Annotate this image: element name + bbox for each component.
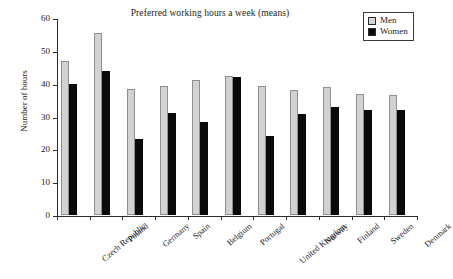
chart-title: Preferred working hours a week (means) bbox=[60, 8, 360, 18]
bar-women-poland bbox=[102, 71, 110, 215]
bar-men-denmark bbox=[389, 95, 397, 215]
y-axis-title: Number of hours bbox=[19, 41, 29, 161]
x-axis-category-label: Finland bbox=[355, 221, 381, 245]
y-axis-tick-label: 60 bbox=[41, 13, 50, 23]
x-axis-tick bbox=[319, 216, 320, 220]
y-axis-tick: 40 bbox=[53, 85, 57, 86]
bar-women-united-kingdom bbox=[266, 136, 274, 215]
y-axis-tick-label: 50 bbox=[41, 46, 50, 56]
x-axis-tick bbox=[155, 216, 156, 220]
y-axis-tick: 20 bbox=[53, 150, 57, 151]
x-axis-category: Germany bbox=[160, 221, 191, 249]
x-axis-category-label: Belgium bbox=[225, 221, 254, 247]
y-axis-tick: 30 bbox=[53, 118, 57, 119]
bar-women-germany bbox=[135, 139, 143, 215]
y-axis-tick-label: 30 bbox=[41, 112, 50, 122]
bar-women-norway bbox=[298, 114, 306, 215]
x-axis-line bbox=[57, 216, 417, 217]
plot-area: 0102030405060 bbox=[57, 19, 417, 216]
x-axis-tick bbox=[221, 216, 222, 220]
bar-men-germany bbox=[127, 89, 135, 215]
x-axis-tick bbox=[90, 216, 91, 220]
x-axis-category: Sweden bbox=[388, 221, 415, 246]
bar-women-czech-republic bbox=[69, 84, 77, 215]
x-axis-category-label: Germany bbox=[160, 221, 191, 249]
x-axis-category-label: Portugal bbox=[258, 221, 286, 247]
bar-women-portugal bbox=[233, 77, 241, 215]
x-axis-tick bbox=[188, 216, 189, 220]
bar-women-belgium bbox=[200, 122, 208, 215]
x-axis-category-label: Spain bbox=[190, 221, 211, 241]
bar-women-spain bbox=[168, 113, 176, 215]
y-axis-tick-label: 40 bbox=[41, 79, 50, 89]
x-axis-category: Denmark bbox=[422, 221, 453, 249]
x-axis-tick bbox=[253, 216, 254, 220]
x-axis-tick bbox=[352, 216, 353, 220]
x-axis-category: Portugal bbox=[258, 221, 286, 247]
bar-men-poland bbox=[94, 33, 102, 215]
x-axis-category: Poland bbox=[126, 221, 151, 244]
x-axis-tick bbox=[286, 216, 287, 220]
y-axis-tick-label: 0 bbox=[46, 210, 51, 220]
x-axis-tick bbox=[417, 216, 418, 220]
bar-men-united-kingdom bbox=[258, 86, 266, 215]
x-axis-category: Belgium bbox=[225, 221, 254, 247]
y-axis-line bbox=[57, 19, 58, 217]
bar-women-finland bbox=[331, 107, 339, 215]
bar-women-denmark bbox=[397, 110, 405, 215]
bar-men-czech-republic bbox=[61, 61, 69, 215]
y-axis-tick-label: 20 bbox=[41, 144, 50, 154]
bar-men-sweden bbox=[356, 94, 364, 215]
bar-men-portugal bbox=[225, 76, 233, 215]
x-axis-category-label: Sweden bbox=[388, 221, 415, 246]
y-axis-tick-label: 10 bbox=[41, 177, 50, 187]
x-axis-category: Finland bbox=[355, 221, 381, 245]
x-axis-category: Spain bbox=[190, 221, 211, 241]
x-axis-tick bbox=[57, 216, 58, 220]
bar-men-finland bbox=[323, 87, 331, 215]
x-axis-category-label: Poland bbox=[126, 221, 151, 244]
bar-men-belgium bbox=[192, 80, 200, 215]
y-axis-tick: 10 bbox=[53, 183, 57, 184]
bar-men-spain bbox=[160, 86, 168, 215]
bar-men-norway bbox=[290, 90, 298, 215]
bar-women-sweden bbox=[364, 110, 372, 215]
x-axis-tick bbox=[384, 216, 385, 220]
y-axis-tick: 50 bbox=[53, 52, 57, 53]
x-axis-tick bbox=[122, 216, 123, 220]
x-axis-category-label: Denmark bbox=[422, 221, 453, 249]
y-axis-tick: 60 bbox=[53, 19, 57, 20]
